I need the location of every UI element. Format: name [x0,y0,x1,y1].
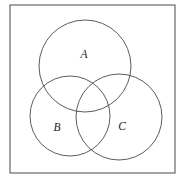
set-label-b: B [53,121,60,133]
set-label-c: C [118,120,126,132]
venn-diagram-canvas: A B C [0,0,187,188]
set-label-a: A [79,48,88,60]
diagram-outer-border [10,5,175,173]
venn-diagram-figure: A B C [0,0,187,188]
